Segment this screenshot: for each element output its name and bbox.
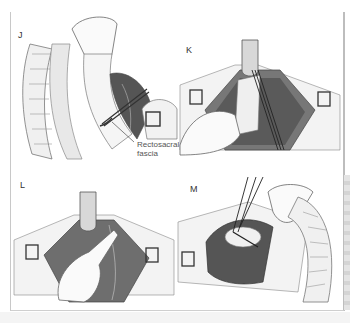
panel-j: J Rectosacral fascia <box>12 14 177 164</box>
retractor-blade <box>80 192 96 231</box>
label-rectosacral: Rectosacral <box>137 140 179 149</box>
illustration-m <box>178 172 343 307</box>
illustration-k <box>180 40 340 160</box>
label-fascia: fascia <box>137 149 158 158</box>
panel-m: M <box>178 172 343 307</box>
colon-shape <box>23 44 52 159</box>
page-bottom-edge <box>0 312 350 323</box>
panel-l: L <box>14 180 174 305</box>
panel-k: K <box>180 40 340 160</box>
page-edge <box>344 175 350 310</box>
illustration-l <box>14 180 174 305</box>
